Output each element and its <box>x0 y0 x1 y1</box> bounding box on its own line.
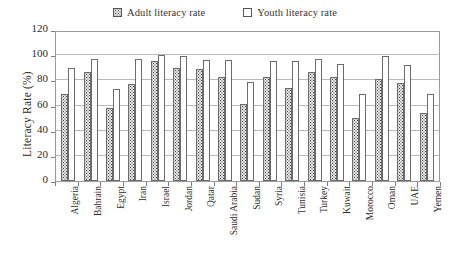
bar-group <box>102 32 124 181</box>
bar-adult <box>352 118 359 181</box>
bar-group <box>124 32 146 181</box>
bar-group <box>57 32 79 181</box>
x-tick-label: Algeria <box>70 186 80 252</box>
bar-group <box>169 32 191 181</box>
bar-adult <box>308 72 315 181</box>
bar-adult <box>420 113 427 181</box>
dotted-square-icon <box>113 8 122 17</box>
bar-adult <box>196 69 203 181</box>
bar-adult <box>397 83 404 181</box>
bar-youth <box>404 65 411 181</box>
x-tick-label: Kuwait <box>342 186 352 252</box>
x-tick-label: Sudan <box>252 186 262 252</box>
bar-youth <box>225 60 232 181</box>
bar-adult <box>173 68 180 181</box>
bar-group <box>147 32 169 181</box>
bar-youth <box>315 59 322 181</box>
bar-adult <box>84 72 91 181</box>
y-tick-label: 80 <box>37 73 48 84</box>
x-tick-label: Tunisia <box>297 186 307 252</box>
bar-group <box>79 32 101 181</box>
y-tick-label: 40 <box>37 124 48 135</box>
chart-legend: Adult literacy rate Youth literacy rate <box>0 3 450 21</box>
bar-adult <box>330 77 337 181</box>
bar-adult <box>263 77 270 181</box>
y-tick-label: 120 <box>32 23 49 34</box>
empty-square-icon <box>243 8 252 17</box>
x-tick-label: Qatar <box>206 186 216 252</box>
x-tick-label: Egypt <box>116 186 126 252</box>
bar-adult <box>240 104 247 181</box>
bar-group <box>259 32 281 181</box>
y-tick-label: 20 <box>37 149 48 160</box>
x-tick-label: Jordan <box>184 186 194 252</box>
bar-youth <box>382 56 389 181</box>
x-tick-label: Yemen <box>433 186 443 252</box>
x-tick-label: UAE <box>410 186 420 252</box>
x-tick-label: Iran <box>138 186 148 252</box>
bar-adult <box>375 79 382 181</box>
bar-group <box>348 32 370 181</box>
x-tick-label: Oman <box>387 186 397 252</box>
legend-item-adult: Adult literacy rate <box>113 7 205 18</box>
legend-label-adult: Adult literacy rate <box>127 7 205 18</box>
bar-adult <box>128 84 135 181</box>
bar-youth <box>270 61 277 181</box>
bar-adult <box>151 61 158 181</box>
legend-label-youth: Youth literacy rate <box>257 7 337 18</box>
bar-group <box>214 32 236 181</box>
bar-youth <box>359 94 366 181</box>
bar-adult <box>285 88 292 181</box>
bar-youth <box>158 55 165 181</box>
legend-item-youth: Youth literacy rate <box>243 7 337 18</box>
bar-youth <box>91 59 98 181</box>
y-tick-label: 0 <box>43 174 49 185</box>
x-axis-labels: AlgeriaBahrainEgyptIranIsraelJordanQatar… <box>55 186 440 252</box>
y-axis-ticks: 020406080100120 <box>0 31 55 182</box>
bar-youth <box>337 64 344 181</box>
x-tick-label: Morocco <box>365 186 375 252</box>
x-tick-label: Bahrain <box>93 186 103 252</box>
chart-page: Adult literacy rate Youth literacy rate … <box>0 0 450 253</box>
bar-group <box>393 32 415 181</box>
y-tick-label: 60 <box>37 99 48 110</box>
y-tick-label: 100 <box>32 48 49 59</box>
bar-group <box>303 32 325 181</box>
bar-youth <box>113 89 120 181</box>
bar-adult <box>61 94 68 181</box>
bar-group <box>236 32 258 181</box>
bar-youth <box>427 94 434 181</box>
bar-group <box>281 32 303 181</box>
bar-group <box>371 32 393 181</box>
bar-youth <box>247 82 254 181</box>
bar-youth <box>135 59 142 181</box>
bar-youth <box>180 56 187 181</box>
x-tick-label: Saudi Arabia <box>229 186 239 252</box>
bar-group <box>326 32 348 181</box>
x-tick-label: Turkey <box>319 186 329 252</box>
bar-adult <box>106 108 113 181</box>
x-tick-label: Syria <box>274 186 284 252</box>
plot-area <box>55 31 440 182</box>
x-tick-label: Israel <box>161 186 171 252</box>
bar-group <box>416 32 438 181</box>
bar-youth <box>203 60 210 181</box>
bar-youth <box>68 68 75 181</box>
bar-group <box>191 32 213 181</box>
bar-adult <box>218 77 225 181</box>
bar-groups <box>56 32 439 181</box>
bar-youth <box>292 61 299 181</box>
